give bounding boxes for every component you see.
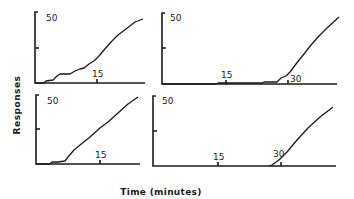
x-axis-label: Time (minutes)	[120, 187, 201, 197]
x-tick-label-30: 30	[273, 149, 285, 159]
response-curve	[36, 97, 138, 164]
axis	[153, 96, 336, 166]
x-tick-label: 15	[95, 150, 106, 160]
response-curve	[162, 17, 339, 84]
panel-bottom-left: 50 15	[36, 95, 140, 164]
panel-bottom-right: 50 15 30	[153, 96, 336, 166]
response-curve	[35, 19, 143, 83]
x-tick-label-30: 30	[290, 74, 302, 84]
cumulative-record-figure: Responses 50 15 50 15 30 50 15 50 15 3	[0, 0, 354, 199]
y-top-label: 50	[162, 96, 174, 106]
y-top-label: 50	[170, 13, 182, 23]
x-tick-label-15: 15	[213, 152, 224, 162]
x-tick-label-15: 15	[221, 70, 232, 80]
x-tick-label: 15	[92, 69, 103, 79]
y-top-label: 50	[47, 96, 59, 106]
panel-top-left: 50 15	[35, 12, 145, 83]
panel-top-right: 50 15 30	[162, 13, 339, 84]
y-axis-label: Responses	[12, 76, 22, 135]
axis	[162, 13, 337, 84]
y-top-label: 50	[46, 13, 58, 23]
